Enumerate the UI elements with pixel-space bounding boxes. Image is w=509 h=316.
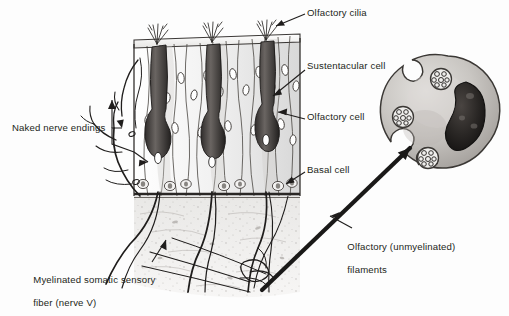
axon-cluster-bottom <box>418 148 439 169</box>
label-olfactory-cilia: Olfactory cilia <box>307 7 367 19</box>
label-sustentacular-cell: Sustentacular cell <box>307 60 385 72</box>
label-olfactory-filaments-line2: filaments <box>347 264 387 275</box>
lamina-propria <box>134 196 300 297</box>
axon-cluster-left <box>393 107 414 128</box>
label-myelinated-fiber-line1: Myelinated somatic sensory <box>33 274 155 285</box>
label-basal-cell: Basal cell <box>307 164 350 176</box>
label-myelinated-fiber-line2: fiber (nerve V) <box>33 297 96 308</box>
diagram-canvas: Olfactory cilia Sustentacular cell Olfac… <box>0 0 509 316</box>
label-myelinated-fiber: Myelinated somatic sensory fiber (nerve … <box>22 262 156 316</box>
label-olfactory-filaments-line1: Olfactory (unmyelinated) <box>347 241 455 252</box>
axon-cluster-top <box>431 69 452 90</box>
schwann-cell-inset <box>380 55 499 169</box>
label-olfactory-cell: Olfactory cell <box>307 111 365 123</box>
olfactory-epithelium-block <box>134 20 300 198</box>
label-naked-nerve-endings: Naked nerve endings <box>12 122 106 134</box>
label-olfactory-filaments: Olfactory (unmyelinated) filaments <box>336 229 455 287</box>
